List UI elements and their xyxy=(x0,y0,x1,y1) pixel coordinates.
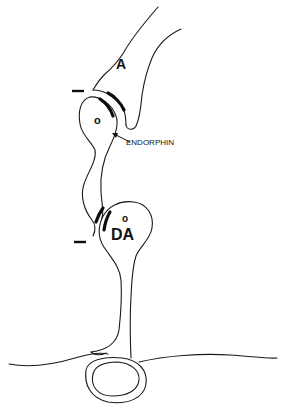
label-dopamine-neuron: DA xyxy=(111,226,135,243)
synapse-da-pre xyxy=(96,208,103,222)
label-endorphin: ENDORPHIN xyxy=(126,138,174,147)
blood-vessel xyxy=(86,358,147,403)
label-neuron-a: A xyxy=(116,56,126,72)
synapse-da-post xyxy=(104,212,110,230)
neuron-a-terminal xyxy=(93,7,181,129)
label-da-marker: o xyxy=(122,213,128,224)
surface-line xyxy=(9,353,108,365)
surface-line-right xyxy=(139,354,277,362)
neuron-diagram: A o ENDORPHIN o DA xyxy=(0,0,283,412)
label-opioid-marker: o xyxy=(94,114,101,126)
